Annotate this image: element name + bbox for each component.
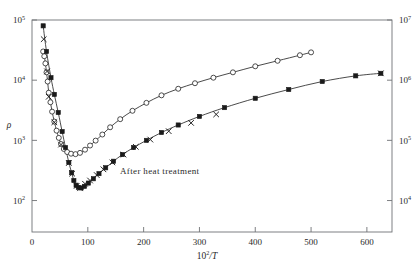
x-axis-label: 102/T — [197, 249, 218, 261]
y-axis-label: ρ — [6, 120, 12, 130]
marker-open-circle — [83, 147, 88, 152]
marker-filled-square — [320, 79, 324, 83]
marker-filled-square — [253, 96, 257, 100]
marker-open-circle — [253, 64, 258, 69]
marker-open-circle — [42, 54, 47, 59]
annotation-after-heat-treatment: After heat treatment — [120, 166, 200, 176]
marker-open-circle — [50, 109, 55, 114]
marker-filled-square — [56, 110, 60, 114]
marker-open-circle — [100, 132, 105, 137]
marker-filled-square — [63, 145, 67, 149]
x-ticklabel-2: 200 — [137, 237, 151, 247]
resistivity-vs-inverse-temperature-chart: 1021031041051041051061070100200300400500… — [0, 0, 419, 267]
marker-filled-square — [287, 87, 291, 91]
marker-x — [188, 120, 194, 126]
marker-filled-square — [176, 123, 180, 127]
series-2-markers — [41, 36, 384, 191]
marker-filled-square — [44, 49, 48, 53]
marker-filled-square — [52, 92, 56, 96]
marker-open-circle — [192, 81, 197, 86]
x-ticklabel-3: 300 — [193, 237, 207, 247]
y-ticklabel-right-2: 106 — [399, 74, 411, 85]
marker-filled-square — [222, 106, 226, 110]
marker-filled-square — [354, 74, 358, 78]
marker-open-circle — [130, 108, 135, 113]
marker-open-circle — [297, 53, 302, 58]
marker-filled-square — [60, 129, 64, 133]
marker-filled-square — [72, 178, 76, 182]
marker-open-circle — [88, 143, 93, 148]
series-0-markers — [41, 49, 314, 157]
marker-filled-square — [49, 76, 53, 80]
marker-open-circle — [78, 150, 83, 155]
y-ticklabel-left-1: 103 — [13, 134, 25, 145]
curve-heat-treated — [43, 26, 381, 188]
x-ticklabel-1: 100 — [81, 237, 95, 247]
marker-open-circle — [48, 100, 53, 105]
marker-filled-square — [41, 24, 45, 28]
marker-x — [41, 36, 47, 42]
x-ticklabel-0: 0 — [30, 237, 35, 247]
marker-filled-square — [104, 166, 108, 170]
marker-open-circle — [56, 135, 61, 140]
marker-x — [213, 112, 219, 118]
marker-filled-square — [159, 130, 163, 134]
marker-open-circle — [144, 100, 149, 105]
y-ticklabel-right-1: 105 — [399, 134, 411, 145]
marker-open-circle — [159, 93, 164, 98]
marker-open-circle — [54, 128, 59, 133]
marker-open-circle — [93, 138, 98, 143]
y-ticklabel-left-0: 102 — [13, 194, 25, 205]
marker-filled-square — [197, 114, 201, 118]
marker-open-circle — [43, 61, 48, 66]
x-ticklabel-5: 500 — [304, 237, 318, 247]
series-1-markers — [41, 24, 383, 190]
y-ticklabel-left-2: 104 — [13, 74, 25, 85]
marker-open-circle — [211, 75, 216, 80]
y-ticklabel-right-0: 104 — [399, 194, 411, 205]
plot-frame — [32, 20, 392, 232]
x-ticklabel-4: 400 — [249, 237, 263, 247]
chart-svg: 1021031041051041051061070100200300400500… — [0, 0, 419, 267]
curve-as-received — [43, 51, 311, 154]
marker-open-circle — [118, 117, 123, 122]
marker-open-circle — [108, 125, 113, 130]
marker-open-circle — [230, 70, 235, 75]
x-ticklabel-6: 600 — [360, 237, 374, 247]
marker-open-circle — [176, 86, 181, 91]
y-ticklabel-right-3: 107 — [399, 14, 411, 25]
marker-open-circle — [309, 50, 314, 55]
marker-open-circle — [275, 58, 280, 63]
y-ticklabel-left-3: 105 — [13, 14, 25, 25]
